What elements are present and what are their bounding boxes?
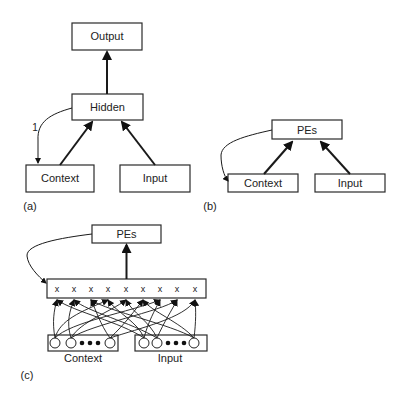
product-units: x x x x x x x x x [55,284,198,294]
ellipsis-dot [80,341,85,346]
context-unit-circle [50,338,60,348]
context-label-c: Context [64,352,102,364]
input-label-b: Input [338,177,362,189]
product-unit: x [89,284,94,294]
product-unit: x [55,284,60,294]
pes-label-c: PEs [116,228,137,240]
input-unit-circle [152,338,162,348]
pes-label-b: PEs [297,124,318,136]
input-unit-circle [139,338,149,348]
fan-connections [54,300,196,338]
edge-input-pes-b [321,142,350,174]
input-unit-circle [189,338,199,348]
recurrent-weight-label: 1 [32,122,38,133]
edge-context-hidden-a [60,122,92,165]
caption-b: (b) [203,200,216,212]
product-unit: x [124,284,129,294]
context-unit-circle [105,338,115,348]
input-label-c: Input [158,352,182,364]
diagram-canvas: Output Hidden Context Input 1 (a) PEs Co… [0,0,409,403]
product-unit: x [72,284,77,294]
panel-a: Output Hidden Context Input 1 (a) [23,23,190,212]
edge-input-hidden-a [122,122,155,165]
product-unit: x [193,284,198,294]
context-label-b: Context [244,177,282,189]
context-unit-circle [66,338,76,348]
ellipsis-dot [166,341,171,346]
panel-b: PEs Context Input (b) [203,120,385,212]
ellipsis-dot [182,341,187,346]
ellipsis-dot [174,341,179,346]
edge-recurrent-c [27,234,92,283]
hidden-label-a: Hidden [90,101,125,113]
input-label-a: Input [143,172,167,184]
ellipsis-dot [96,341,101,346]
caption-c: (c) [21,369,34,381]
product-unit: x [141,284,146,294]
panel-c: PEs x x x x x x x x x [21,225,207,381]
product-unit: x [106,284,111,294]
edge-context-pes-b [264,142,292,174]
ellipsis-dot [88,341,93,346]
context-label-a: Context [41,172,79,184]
product-unit: x [158,284,163,294]
caption-a: (a) [23,200,36,212]
output-label-a: Output [90,30,123,42]
product-unit: x [175,284,180,294]
